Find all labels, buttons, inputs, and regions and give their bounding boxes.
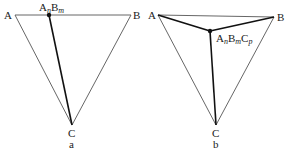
- diagram-b: A B C AnBmCp b: [148, 9, 284, 150]
- caption-a: a: [69, 138, 74, 150]
- vertex-b-label: B: [277, 11, 284, 23]
- diagram-a: A B C AnBm a: [4, 1, 140, 150]
- ternary-point-dot: [208, 29, 212, 33]
- join-line-c-b: [210, 31, 216, 125]
- vertex-a-label: A: [4, 9, 12, 21]
- vertex-b-label: B: [133, 9, 140, 21]
- join-line-a: [49, 15, 72, 125]
- join-line-b-b: [210, 17, 274, 31]
- caption-b: b: [213, 138, 219, 150]
- triangle-abc-a: [15, 15, 131, 125]
- ternary-composition-diagrams: A B C AnBm a A B C AnBmCp b: [0, 0, 289, 151]
- vertex-a-label: A: [148, 9, 156, 21]
- ternary-point-label: AnBmCp: [216, 32, 252, 46]
- binary-point-label: AnBm: [39, 1, 64, 15]
- join-line-a-b: [158, 15, 210, 31]
